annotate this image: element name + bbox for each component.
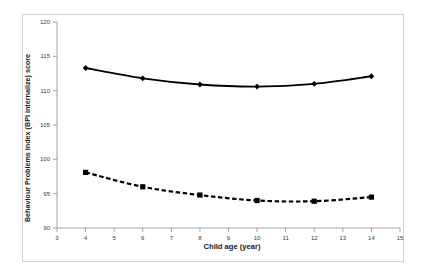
y-axis-title: Behaviour Problems Index (BPI internaliz… (23, 54, 32, 222)
series-2-marker (312, 199, 317, 204)
series-1-marker (369, 73, 375, 79)
x-tick-label-15: 15 (397, 235, 404, 241)
y-tick-label-90: 90 (28, 225, 50, 231)
series-1-marker (311, 81, 317, 87)
series-1-marker (197, 82, 203, 88)
series-2-marker (83, 170, 88, 175)
series-2-marker (197, 192, 202, 197)
x-tick-label-13: 13 (339, 235, 346, 241)
series-1-marker (83, 65, 89, 71)
data-series-layer (83, 65, 375, 204)
x-tick-label-10: 10 (254, 235, 261, 241)
plot-area (0, 0, 425, 277)
series-1-marker (140, 75, 146, 81)
x-axis-title: Child age (year) (204, 242, 261, 251)
x-tick-label-8: 8 (198, 235, 201, 241)
x-tick-label-4: 4 (84, 235, 87, 241)
series-1-group (83, 65, 375, 89)
series-2-marker (140, 184, 145, 189)
x-tick-label-12: 12 (311, 235, 318, 241)
series-1-line (86, 68, 372, 87)
x-tick-label-9: 9 (227, 235, 230, 241)
series-2-group (83, 170, 374, 204)
x-tick-label-5: 5 (112, 235, 115, 241)
y-tick-label-120: 120 (28, 19, 50, 25)
series-1-marker (254, 84, 260, 90)
x-tick-label-7: 7 (170, 235, 173, 241)
chart-figure: 120 115 110 105 100 95 90 3 4 5 6 7 8 9 … (0, 0, 425, 277)
series-2-marker (254, 198, 259, 203)
series-2-marker (369, 195, 374, 200)
x-tick-label-14: 14 (368, 235, 375, 241)
x-tick-label-6: 6 (141, 235, 144, 241)
y-axis-ticks (53, 22, 57, 228)
x-tick-label-11: 11 (283, 235, 289, 241)
x-axis-ticks (57, 228, 400, 232)
x-tick-label-3: 3 (55, 235, 58, 241)
series-2-line (86, 172, 372, 201)
